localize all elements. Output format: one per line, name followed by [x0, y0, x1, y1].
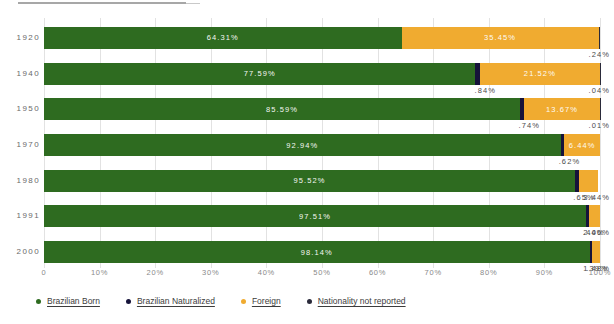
- bar-segment: [599, 27, 600, 49]
- legend-item[interactable]: Brazilian Born: [36, 296, 100, 306]
- y-axis-year-label: 2000: [0, 247, 40, 256]
- bar-row: 85.59%13.67%: [44, 98, 600, 120]
- x-axis-tick-label: 40%: [258, 268, 275, 277]
- bar-row: 95.52%: [44, 170, 600, 192]
- chart-legend: Brazilian BornBrazilian NaturalizedForei…: [36, 296, 432, 306]
- title-underline-rule: [18, 2, 186, 4]
- x-axis-tick-label: 10%: [91, 268, 108, 277]
- bar-segment: [579, 170, 598, 192]
- bar-segment: 6.44%: [564, 134, 600, 156]
- y-axis-year-label: 1920: [0, 33, 40, 42]
- x-axis: 010%20%30%40%50%60%70%80%90%100%: [44, 268, 600, 282]
- stacked-bar-chart: 64.31%35.45%.24%77.59%21.52%.84%.04%85.5…: [0, 0, 614, 324]
- x-axis-tick-label: 70%: [424, 268, 441, 277]
- x-axis-tick-label: 80%: [480, 268, 497, 277]
- bar-segment: 21.52%: [480, 63, 600, 85]
- legend-item[interactable]: Nationality not reported: [307, 296, 406, 306]
- bar-row: 98.14%: [44, 241, 600, 263]
- bar-row: 97.51%: [44, 205, 600, 227]
- bar-segment-value-outside: .01%: [589, 121, 611, 130]
- x-axis-tick-label: 90%: [536, 268, 553, 277]
- bar-segment-value: 21.52%: [524, 69, 556, 78]
- bar-segment: 95.52%: [44, 170, 575, 192]
- bar-segment: 98.14%: [44, 241, 590, 263]
- legend-item[interactable]: Foreign: [241, 296, 281, 306]
- legend-swatch-icon: [241, 299, 246, 304]
- bar-segment-value: 97.51%: [299, 212, 331, 221]
- y-axis-year-label: 1950: [0, 104, 40, 113]
- bar-segment-value: 77.59%: [244, 69, 276, 78]
- plot-area: 64.31%35.45%.24%77.59%21.52%.84%.04%85.5…: [44, 18, 600, 268]
- x-axis-tick-label: 50%: [313, 268, 330, 277]
- bar-segment-value: 98.14%: [301, 248, 333, 257]
- x-axis-tick-label: 100%: [589, 268, 611, 277]
- legend-label: Brazilian Born: [47, 296, 100, 306]
- x-axis-tick-label: 20%: [146, 268, 163, 277]
- bar-segment-value-outside: 3.44%: [583, 193, 610, 202]
- bar-segment: 92.94%: [44, 134, 561, 156]
- bar-segment-value-outside: .24%: [589, 50, 611, 59]
- bar-segment-value: 92.94%: [286, 141, 318, 150]
- bar-segment-value-outside: .62%: [559, 157, 581, 166]
- bar-row: 92.94%6.44%: [44, 134, 600, 156]
- bar-segment-value: 64.31%: [207, 33, 239, 42]
- bar-segment-value: 35.45%: [484, 33, 516, 42]
- title-underline-rule-faint: [186, 3, 200, 4]
- bar-segment: 77.59%: [44, 63, 475, 85]
- bar-segment-value: 95.52%: [294, 176, 326, 185]
- legend-label: Brazilian Naturalized: [137, 296, 215, 306]
- x-axis-tick-label: 60%: [369, 268, 386, 277]
- bar-segment: [589, 205, 600, 227]
- y-axis-year-label: 1980: [0, 176, 40, 185]
- legend-label: Nationality not reported: [318, 296, 406, 306]
- bar-segment-value-outside: .04%: [589, 86, 611, 95]
- bar-segment: 13.67%: [524, 98, 600, 120]
- bar-segment-value: 6.44%: [569, 141, 596, 150]
- bar-segment-value-outside: 2.06%: [583, 228, 610, 237]
- bar-segment-value-outside: .74%: [518, 121, 540, 130]
- bar-segment-value-outside: .84%: [475, 86, 497, 95]
- y-axis-year-label: 1970: [0, 140, 40, 149]
- y-axis-year-label: 1940: [0, 69, 40, 78]
- legend-swatch-icon: [36, 299, 41, 304]
- bar-segment-value: 13.67%: [546, 105, 578, 114]
- bar-segment-value: 85.59%: [266, 105, 298, 114]
- bar-segment: 97.51%: [44, 205, 586, 227]
- legend-swatch-icon: [307, 299, 312, 304]
- bar-segment: 85.59%: [44, 98, 520, 120]
- legend-label: Foreign: [252, 296, 281, 306]
- y-axis-year-label: 1991: [0, 211, 40, 220]
- bar-segment: [600, 63, 601, 85]
- bar-row: 77.59%21.52%: [44, 63, 600, 85]
- bar-segment: 64.31%: [44, 27, 402, 49]
- bar-segment: [600, 98, 601, 120]
- x-axis-tick-label: 30%: [202, 268, 219, 277]
- legend-swatch-icon: [126, 299, 131, 304]
- bar-segment: [592, 241, 600, 263]
- legend-item[interactable]: Brazilian Naturalized: [126, 296, 215, 306]
- bar-row: 64.31%35.45%: [44, 27, 600, 49]
- bar-segment: 35.45%: [402, 27, 599, 49]
- x-axis-tick-label: 0: [42, 268, 47, 277]
